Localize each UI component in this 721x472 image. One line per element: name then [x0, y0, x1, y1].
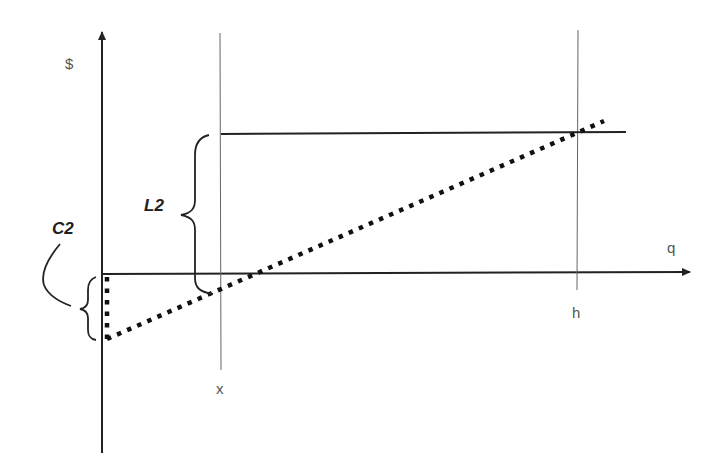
l2-label: L2 [144, 196, 164, 215]
x-axis [102, 272, 690, 274]
x-axis-label: q [667, 239, 675, 256]
vertical-line-x [220, 33, 221, 370]
horizontal-level-line [221, 132, 626, 134]
dotted-cost-line [107, 121, 604, 339]
x-marker-label: x [216, 380, 224, 397]
y-axis-label: $ [65, 55, 74, 72]
vertical-line-h [577, 30, 578, 290]
l2-brace [181, 135, 213, 294]
h-marker-label: h [572, 304, 580, 321]
c2-leader-curve [43, 244, 71, 306]
c2-brace [80, 277, 96, 340]
diagram-canvas: $ q h x L2 C2 [0, 0, 721, 472]
c2-label: C2 [52, 219, 74, 238]
